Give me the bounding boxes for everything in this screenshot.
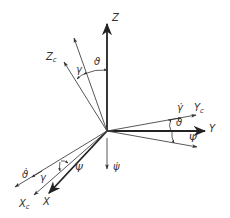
psi-label-right: Ψ [189, 134, 197, 144]
y-axis-label: Y [209, 124, 215, 134]
xc-main: X [19, 198, 26, 209]
gamma-label-bottom: γ [40, 173, 46, 183]
yc-axis [107, 115, 196, 131]
xc-axis [34, 131, 107, 195]
theta-arc-right [170, 119, 172, 131]
theta-dot-label: ϑ̇ [22, 170, 28, 180]
psi-arc-bottom [61, 161, 68, 163]
psi-arc-right [172, 131, 174, 143]
x-axis [49, 131, 107, 193]
theta-dot-axis [15, 131, 107, 187]
zc-sub: c [53, 56, 57, 64]
gamma-label-top: γ [76, 65, 82, 75]
z-theta-axis [74, 38, 107, 131]
yc-axis-label: Yc [194, 103, 204, 115]
xc-axis-label: Xc [19, 199, 30, 211]
gamma-dot-label: γ̇ [177, 103, 183, 113]
y-psi-axis [107, 131, 197, 147]
zc-main: Z [46, 51, 53, 62]
theta-label-right: ϑ [176, 118, 182, 128]
z-axis-label: Z [112, 13, 119, 23]
psi-dot-label: ψ̇ [113, 162, 120, 172]
zc-axis [64, 62, 107, 131]
theta-arc-top [84, 70, 107, 74]
theta-label-top: ϑ [94, 57, 100, 67]
x-axis-label: X [43, 197, 50, 207]
psi-label-bottom: Ψ [75, 164, 83, 174]
yc-sub: c [200, 107, 204, 115]
gamma-arc-bottom [60, 162, 61, 171]
zc-axis-label: Zc [46, 52, 57, 64]
xc-sub: c [26, 203, 30, 211]
